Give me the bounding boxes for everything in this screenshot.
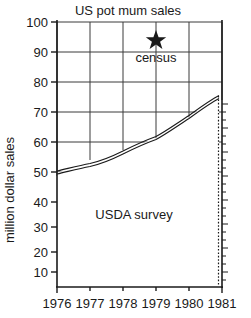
ytick-label-100: 100 [26, 15, 48, 30]
xtick-label-1981: 1981 [208, 296, 237, 311]
ytick-label-50: 50 [34, 165, 48, 180]
pot-mum-sales-chart: US pot mum sales million dollar sales [0, 0, 251, 318]
chart-container: US pot mum sales million dollar sales [0, 0, 251, 318]
ytick-label-30: 30 [34, 220, 48, 235]
ytick-label-10: 10 [34, 265, 48, 280]
ytick-label-20: 20 [34, 245, 48, 260]
y-axis-ticks: 100 90 80 70 60 50 40 30 20 10 [26, 15, 57, 280]
ytick-label-40: 40 [34, 195, 48, 210]
xtick-label-1976: 1976 [43, 296, 72, 311]
x-axis-labels: 1976 1977 1978 1979 1980 1981 [43, 296, 237, 311]
ytick-label-70: 70 [34, 105, 48, 120]
ytick-label-90: 90 [34, 45, 48, 60]
x-axis-ticks [57, 287, 222, 293]
right-axis-ticks [222, 104, 228, 280]
ytick-label-80: 80 [34, 75, 48, 90]
usda-survey-area [57, 97, 219, 287]
xtick-label-1978: 1978 [109, 296, 138, 311]
usda-survey-label: USDA survey [95, 207, 173, 222]
xtick-label-1980: 1980 [175, 296, 204, 311]
census-label: census [135, 50, 177, 65]
y-axis-label: million dollar sales [2, 136, 17, 243]
ytick-label-60: 60 [34, 135, 48, 150]
xtick-label-1977: 1977 [76, 296, 105, 311]
chart-title: US pot mum sales [75, 3, 182, 18]
xtick-label-1979: 1979 [142, 296, 171, 311]
